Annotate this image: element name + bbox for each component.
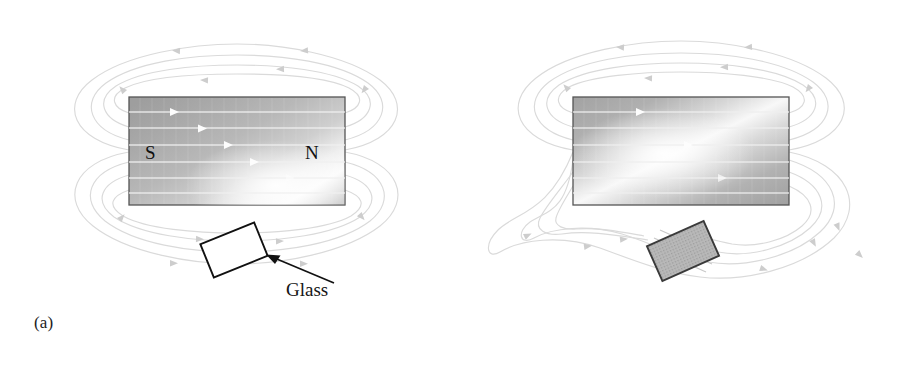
panel-b: S N Soft iron (b) xyxy=(452,0,907,368)
field-arrows-upper-b xyxy=(561,44,813,95)
panel-b-graphic xyxy=(452,0,907,368)
magnet-pole-north-a: N xyxy=(305,142,319,164)
magnetic-field-figure: S N Glass (a) xyxy=(0,0,907,368)
panel-a-graphic xyxy=(0,0,455,368)
panel-caption-a: (a) xyxy=(34,313,53,333)
magnet-pole-south-a: S xyxy=(145,142,156,164)
panel-a: S N Glass (a) xyxy=(0,0,455,368)
glass-block-a[interactable] xyxy=(200,222,267,277)
soft-iron-block-b[interactable] xyxy=(647,221,719,281)
field-arrows-upper-a xyxy=(117,47,369,95)
bar-magnet-b xyxy=(573,97,789,205)
glass-label: Glass xyxy=(286,279,328,301)
